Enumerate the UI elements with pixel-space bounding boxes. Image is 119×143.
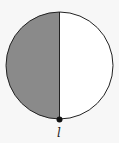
diagram-canvas: l: [0, 0, 119, 143]
shaded-half: [6, 12, 59, 119]
point-marker: [57, 117, 63, 123]
point-label: l: [57, 126, 61, 140]
